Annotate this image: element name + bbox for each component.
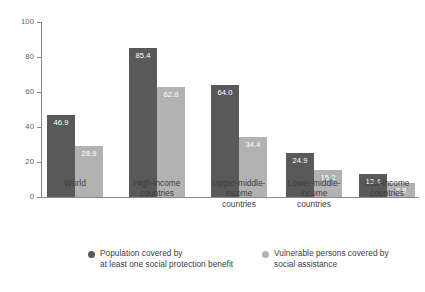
- bar-group: 24.915.2: [286, 22, 342, 197]
- bar-group: 64.034.4: [211, 22, 267, 197]
- circle-marker-icon: [262, 251, 269, 258]
- y-axis-tick: 80: [0, 57, 41, 58]
- y-axis-tick: 0: [0, 197, 41, 198]
- legend-item-label: Population covered by at least one socia…: [100, 248, 233, 270]
- y-axis-tick: 60: [0, 92, 41, 93]
- plot-area: 46.928.985.462.864.034.424.915.213.47.8: [41, 22, 419, 197]
- bar-value-label: 62.8: [157, 90, 185, 100]
- bar[interactable]: 28.9: [75, 146, 103, 197]
- bar-group: 13.47.8: [359, 22, 415, 197]
- y-axis-tick: 100: [0, 22, 41, 23]
- chart-legend: Population covered by at least one socia…: [0, 248, 425, 288]
- bar-value-label: 46.9: [47, 118, 75, 128]
- bar-value-label: 85.4: [129, 51, 157, 61]
- bar[interactable]: 85.4: [129, 48, 157, 197]
- bar-group: 46.928.9: [47, 22, 103, 197]
- legend-item-label: Vulnerable persons covered by social ass…: [274, 248, 389, 270]
- circle-marker-icon: [88, 251, 95, 258]
- y-axis-tick-label: 100: [21, 16, 34, 27]
- y-axis-tick-label: 60: [25, 86, 34, 97]
- bar-chart-figure: 020406080100 46.928.985.462.864.034.424.…: [0, 0, 425, 292]
- legend-item[interactable]: Vulnerable persons covered by social ass…: [262, 248, 389, 270]
- y-axis-tick-label: 40: [25, 121, 34, 132]
- y-axis-tick: 40: [0, 127, 41, 128]
- y-axis-tick-label: 80: [25, 51, 34, 62]
- y-axis-tick-label: 0: [30, 191, 34, 202]
- bar-group: 85.462.8: [129, 22, 185, 197]
- bar-value-label: 24.9: [286, 156, 314, 166]
- legend-item[interactable]: Population covered by at least one socia…: [88, 248, 233, 270]
- y-axis-tick-mark: [37, 197, 41, 198]
- bar-value-label: 64.0: [211, 88, 239, 98]
- bar-value-label: 28.9: [75, 149, 103, 159]
- y-axis-tick: 20: [0, 162, 41, 163]
- y-axis-tick-label: 20: [25, 156, 34, 167]
- x-axis-category-label: Low-income countries: [332, 178, 425, 199]
- bar-value-label: 34.4: [239, 140, 267, 150]
